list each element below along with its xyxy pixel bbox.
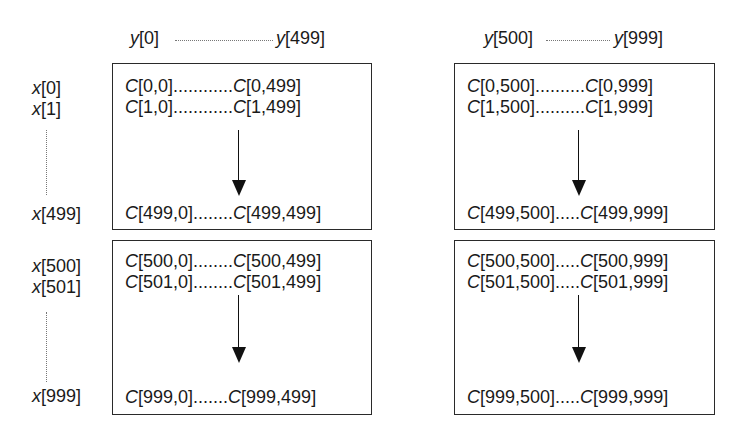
column-header-right-end: y[999] [614, 28, 663, 48]
row-range-dots-bottom [46, 312, 47, 382]
block-row: C[501,500].....C[501,999] [467, 272, 668, 292]
block-top-left: C[0,0]............C[0,499] C[1,0].......… [112, 63, 372, 230]
block-row: C[0,0]............C[0,499] [125, 76, 301, 96]
down-arrow-head-icon [232, 347, 246, 363]
down-arrow-head-icon [572, 180, 586, 196]
block-row: C[1,0]............C[1,499] [125, 97, 301, 117]
down-arrow-icon [238, 295, 239, 347]
down-arrow-head-icon [572, 347, 586, 363]
block-row: C[1,500]..........C[1,999] [467, 97, 653, 117]
row-label-x501: x[501] [32, 277, 81, 297]
block-top-right: C[0,500]..........C[0,999] C[1,500].....… [454, 63, 715, 230]
down-arrow-icon [238, 130, 239, 180]
block-row: C[999,0].......C[999,499] [125, 387, 316, 407]
row-label-x0: x[0] [32, 78, 61, 98]
block-bottom-right: C[500,500].....C[500,999] C[501,500]....… [454, 240, 715, 415]
row-label-x499: x[499] [32, 204, 81, 224]
column-header-left: y[0] [130, 28, 159, 48]
column-range-dots-right [546, 40, 610, 41]
block-row: C[501,0]........C[501,499] [125, 272, 321, 292]
block-row: C[500,500].....C[500,999] [467, 251, 668, 271]
row-range-dots-top [46, 130, 47, 195]
block-bottom-left: C[500,0]........C[500,499] C[501,0].....… [112, 240, 372, 415]
block-row: C[500,0]........C[500,499] [125, 251, 321, 271]
row-label-x1: x[1] [32, 99, 61, 119]
block-row: C[499,500].....C[499,999] [467, 203, 668, 223]
row-label-x999: x[999] [32, 386, 81, 406]
column-header-left-end: y[499] [276, 28, 325, 48]
block-row: C[0,500]..........C[0,999] [467, 76, 653, 96]
down-arrow-icon [578, 295, 579, 347]
column-range-dots-left [175, 40, 273, 41]
block-row: C[999,500].....C[999,999] [467, 387, 668, 407]
row-label-x500: x[500] [32, 256, 81, 276]
down-arrow-head-icon [232, 180, 246, 196]
block-row: C[499,0]........C[499,499] [125, 203, 321, 223]
down-arrow-icon [578, 130, 579, 180]
column-header-right: y[500] [484, 28, 533, 48]
